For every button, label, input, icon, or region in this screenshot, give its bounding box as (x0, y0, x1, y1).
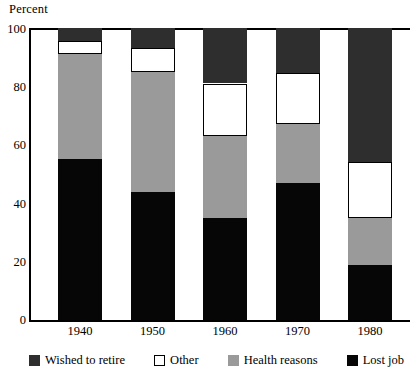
legend-label: Health reasons (244, 354, 318, 367)
bar-segment-1970-wished-to-retire (276, 28, 320, 73)
bar-segment-1950-wished-to-retire (131, 28, 175, 48)
bar-segment-1970-other (276, 73, 320, 124)
bar-segment-1980-wished-to-retire (348, 28, 392, 162)
bar-group-1970 (276, 28, 320, 320)
bar-segment-1950-other (131, 48, 175, 71)
x-tick-label-1960: 1960 (195, 325, 255, 339)
bar-group-1960 (203, 28, 247, 320)
bar-segment-1980-health-reasons (348, 218, 392, 265)
y-tick-label-100: 100 (2, 23, 26, 36)
bar-segment-1960-other (203, 84, 247, 137)
legend-item-other[interactable]: Other (154, 354, 198, 367)
bar-segment-1940-wished-to-retire (58, 28, 102, 41)
y-tick-label-40: 40 (2, 198, 26, 211)
x-tick-label-1940: 1940 (50, 325, 110, 339)
stacked-bar-chart: Percent 100 80 60 40 20 0 19401950196019… (0, 0, 419, 379)
bar-group-1980 (348, 28, 392, 320)
x-axis-tick-labels: 19401950196019701980 (29, 325, 410, 343)
bar-group-1950 (131, 28, 175, 320)
y-tick-label-20: 20 (2, 256, 26, 269)
legend-swatch-icon-white (154, 355, 165, 366)
plot-area (29, 28, 410, 322)
bar-segment-1940-health-reasons (58, 54, 102, 159)
legend-swatch-icon-gray (228, 355, 239, 366)
bar-segment-1980-lost-job (348, 265, 392, 320)
bar-series-container (31, 28, 410, 320)
legend-item-lost-job[interactable]: Lost job (347, 354, 404, 367)
legend-swatch-icon-dark (29, 355, 40, 366)
bar-segment-1940-lost-job (58, 159, 102, 320)
bar-segment-1960-lost-job (203, 218, 247, 320)
bar-segment-1950-health-reasons (131, 72, 175, 192)
bar-group-1940 (58, 28, 102, 320)
legend-swatch-icon-black (347, 355, 358, 366)
x-tick-label-1980: 1980 (340, 325, 400, 339)
bar-segment-1960-health-reasons (203, 136, 247, 218)
x-tick-label-1950: 1950 (123, 325, 183, 339)
x-axis-spine (29, 320, 410, 322)
y-axis-tick-labels: 100 80 60 40 20 0 (0, 28, 26, 322)
bar-segment-1970-health-reasons (276, 124, 320, 182)
legend-item-wished-to-retire[interactable]: Wished to retire (29, 354, 125, 367)
legend-label: Wished to retire (45, 354, 125, 367)
bar-segment-1980-other (348, 162, 392, 217)
y-tick-label-60: 60 (2, 139, 26, 152)
chart-legend: Wished to retireOtherHealth reasonsLost … (29, 350, 410, 370)
x-tick-label-1970: 1970 (268, 325, 328, 339)
legend-label: Lost job (363, 354, 404, 367)
bar-segment-1940-other (58, 41, 102, 54)
legend-item-health-reasons[interactable]: Health reasons (228, 354, 318, 367)
legend-label: Other (170, 354, 198, 367)
y-tick-label-80: 80 (2, 81, 26, 94)
bar-segment-1970-lost-job (276, 183, 320, 320)
y-axis-title: Percent (9, 2, 48, 17)
y-tick-label-0: 0 (2, 314, 26, 327)
bar-segment-1950-lost-job (131, 192, 175, 320)
bar-segment-1960-wished-to-retire (203, 28, 247, 83)
